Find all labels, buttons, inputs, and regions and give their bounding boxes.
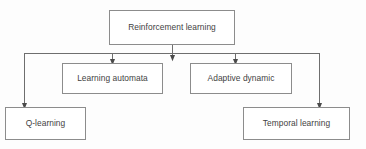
node-label: Q-learning <box>26 119 66 128</box>
node-reinforcement-learning: Reinforcement learning <box>109 10 235 45</box>
node-label: Adaptive dynamic <box>208 74 275 83</box>
node-q-learning: Q-learning <box>5 107 86 140</box>
reinforcement-learning-diagram: Reinforcement learning Learning automata… <box>0 0 366 149</box>
node-temporal-learning: Temporal learning <box>243 107 350 140</box>
node-label: Reinforcement learning <box>128 23 216 32</box>
node-label: Learning automata <box>77 74 148 83</box>
node-label: Temporal learning <box>263 119 330 128</box>
node-learning-automata: Learning automata <box>62 63 163 94</box>
node-adaptive-dynamic: Adaptive dynamic <box>190 63 292 94</box>
